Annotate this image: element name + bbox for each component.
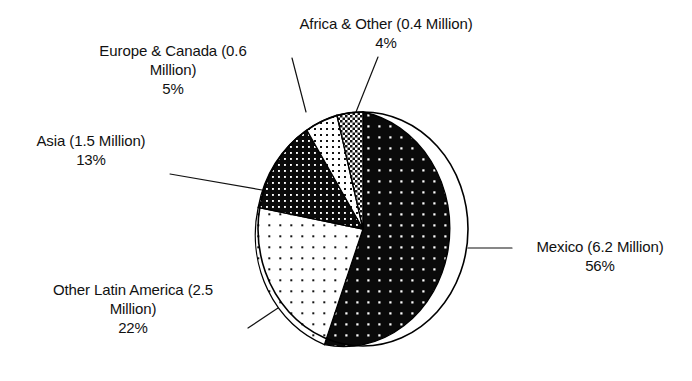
leader-line-otherlatin	[248, 308, 278, 328]
pie-label-europe-canada: Europe & Canada (0.6 Million) 5%	[78, 41, 268, 98]
pie-label-mexico: Mexico (6.2 Million) 56%	[512, 237, 688, 275]
pie-label-other-latin-america: Other Latin America (2.5 Million) 22%	[18, 280, 248, 337]
pie-label-africa-other: Africa & Other (0.4 Million) 4%	[281, 14, 491, 52]
pie-chart-figure: Mexico Other Latin America Asia Europe &…	[0, 0, 692, 381]
leader-line-africa	[356, 57, 378, 112]
leader-line-europe	[292, 58, 306, 112]
pie-label-asia: Asia (1.5 Million) 13%	[6, 131, 176, 169]
pie-slices: Mexico Other Latin America Asia Europe &…	[255, 112, 468, 347]
leader-line-asia	[170, 174, 262, 190]
